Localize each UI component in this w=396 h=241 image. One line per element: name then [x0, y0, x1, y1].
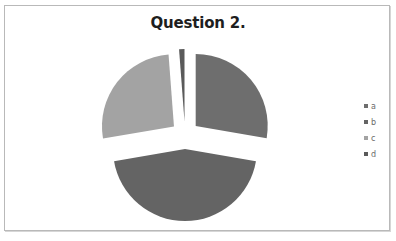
legend-item-c: c: [364, 130, 388, 146]
legend-item-b: b: [364, 114, 388, 130]
legend-swatch-icon: [364, 136, 368, 140]
legend-label: a: [371, 102, 376, 111]
legend-swatch-icon: [364, 104, 368, 108]
pie-slice-c: [102, 55, 174, 139]
legend-item-a: a: [364, 98, 388, 114]
pie-slice-d: [179, 49, 184, 121]
pie-slice-a: [196, 54, 268, 138]
chart-legend: a b c d: [364, 98, 388, 162]
legend-swatch-icon: [364, 152, 368, 156]
pie-slice-b: [114, 149, 256, 221]
legend-label: b: [371, 118, 376, 127]
pie-chart: [0, 0, 396, 241]
legend-label: d: [371, 150, 376, 159]
legend-label: c: [371, 134, 375, 143]
legend-swatch-icon: [364, 120, 368, 124]
legend-item-d: d: [364, 146, 388, 162]
